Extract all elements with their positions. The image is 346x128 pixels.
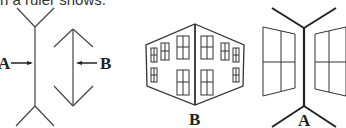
label-b-lines: B [100,54,111,73]
label-a-lines: A [0,54,11,73]
muller-lyer-figure: A B B [0,0,346,128]
building-inside-corner [263,8,346,127]
muller-lyer-lines [11,8,97,126]
building-outside-corner [146,24,244,105]
label-a-building: A [298,111,311,128]
label-b-building: B [189,110,200,128]
